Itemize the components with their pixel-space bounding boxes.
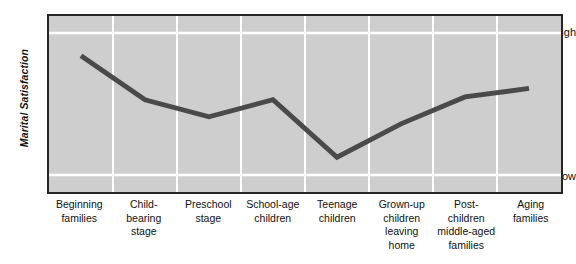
x-axis-category-label-line: children (371, 212, 434, 226)
x-axis-category-label-line: children (435, 212, 498, 226)
plot-area (47, 14, 563, 194)
x-axis-category-label-line: bearing (113, 212, 176, 226)
x-axis-category-label-line: Aging (500, 198, 563, 212)
x-axis-category-label-line: Child- (113, 198, 176, 212)
x-axis-category-label-line: School-age (242, 198, 305, 212)
x-axis-category-label: Post-childrenmiddle-agedfamilies (434, 198, 499, 264)
x-axis-category-label-line: middle-aged (435, 225, 498, 239)
x-axis-category-label-line: Post- (435, 198, 498, 212)
x-axis-category-label: Grown-upchildrenleavinghome (370, 198, 435, 264)
x-axis-category-label-line: families (48, 212, 111, 226)
x-axis-category-label-line: children (306, 212, 369, 226)
x-axis-category-label-line: Beginning (48, 198, 111, 212)
x-axis-category-labels: BeginningfamiliesChild-bearingstagePresc… (47, 198, 563, 264)
x-axis-category-label-line: Grown-up (371, 198, 434, 212)
x-axis-category-label-line: leaving (371, 225, 434, 239)
x-axis-category-label-line: children (242, 212, 305, 226)
x-axis-category-label: Teenagechildren (305, 198, 370, 264)
x-axis-category-label-line: stage (177, 212, 240, 226)
x-axis-category-label-line: families (435, 239, 498, 253)
data-series-line (49, 16, 561, 192)
x-axis-category-label: Child-bearingstage (112, 198, 177, 264)
x-axis-category-label-line: families (500, 212, 563, 226)
x-axis-category-label-line: home (371, 239, 434, 253)
x-axis-category-label: Preschoolstage (176, 198, 241, 264)
x-axis-category-label: Beginningfamilies (47, 198, 112, 264)
x-axis-category-label-line: stage (113, 225, 176, 239)
x-axis-category-label: Agingfamilies (499, 198, 564, 264)
plot-inner (49, 16, 561, 192)
marital-satisfaction-line-chart: Marital Satisfaction High Low Beginningf… (0, 0, 576, 264)
x-axis-category-label: School-agechildren (241, 198, 306, 264)
x-axis-category-label-line: Preschool (177, 198, 240, 212)
y-axis-title: Marital Satisfaction (18, 38, 30, 158)
x-axis-category-label-line: Teenage (306, 198, 369, 212)
